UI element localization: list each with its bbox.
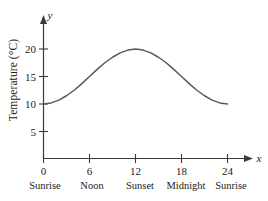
- y-tick-label-20: 20: [25, 43, 37, 55]
- x-tick-label-12: 12: [130, 165, 141, 177]
- y-tick-label-5: 5: [31, 126, 37, 138]
- x-category-label-sunrise-end: Sunrise: [215, 180, 247, 191]
- temperature-curve: [44, 49, 228, 104]
- x-axis-arrow-icon: [244, 155, 253, 162]
- x-category-label-sunrise-start: Sunrise: [29, 180, 61, 191]
- x-axis-symbol-label: x: [256, 152, 262, 164]
- chart-canvas: y x 20 15 10 5 0 6 12 18 24 Sunrise Noon…: [0, 0, 268, 201]
- x-category-label-noon: Noon: [80, 180, 104, 191]
- x-tick-label-24: 24: [222, 165, 234, 177]
- x-category-label-midnight: Midnight: [166, 180, 205, 191]
- x-tick-label-18: 18: [176, 165, 188, 177]
- y-axis-symbol-label: y: [47, 9, 53, 21]
- x-tick-label-6: 6: [87, 165, 93, 177]
- y-tick-label-15: 15: [25, 71, 37, 83]
- y-tick-label-10: 10: [25, 98, 37, 110]
- x-category-label-sunset: Sunset: [126, 180, 154, 191]
- x-tick-label-0: 0: [41, 165, 47, 177]
- temperature-chart-figure: y x 20 15 10 5 0 6 12 18 24 Sunrise Noon…: [0, 0, 268, 201]
- y-axis-arrow-icon: [40, 15, 47, 24]
